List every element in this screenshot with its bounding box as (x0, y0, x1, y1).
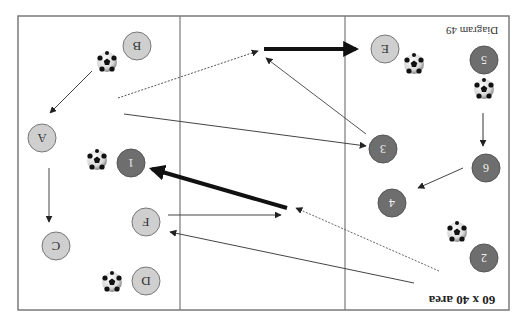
player-f-label: F (142, 215, 149, 230)
player-1: 1 (117, 149, 145, 177)
player-c: C (42, 232, 70, 260)
player-a: A (28, 124, 56, 152)
player-a-label: A (37, 131, 47, 146)
player-6: 6 (472, 154, 500, 182)
player-4-label: 4 (389, 196, 395, 210)
player-1-label: 1 (128, 156, 134, 170)
player-5-label: 5 (481, 53, 487, 67)
player-c-label: C (52, 239, 61, 254)
player-d-label: D (141, 274, 150, 289)
player-5: 5 (470, 46, 498, 74)
soccer-drill-diagram: Diagram 49 60 x 40 area A (0, 0, 523, 328)
player-3: 3 (369, 135, 397, 163)
player-b: B (123, 32, 151, 60)
player-d: D (132, 267, 160, 295)
player-2-label: 2 (481, 251, 487, 265)
player-3-label: 3 (380, 142, 386, 156)
player-2: 2 (470, 244, 498, 272)
player-e: E (371, 35, 399, 63)
player-6-label: 6 (483, 161, 489, 175)
player-e-label: E (381, 42, 389, 57)
area-label: 60 x 40 area (428, 293, 495, 308)
player-f: F (132, 208, 160, 236)
diagram-title: Diagram 49 (445, 25, 498, 37)
player-4: 4 (378, 189, 406, 217)
player-b-label: B (132, 39, 141, 54)
